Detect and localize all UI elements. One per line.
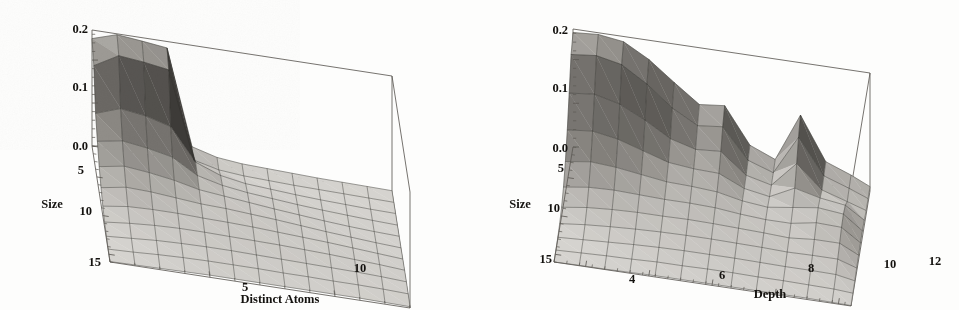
x-axis-title: Distinct Atoms: [241, 292, 320, 306]
x-tick-label: 4: [629, 272, 636, 286]
size-tick-label: 10: [80, 204, 93, 218]
x-tick-label: 8: [808, 261, 814, 275]
surface-plot-left-canvas: 0.00.10.251015510SizeDistinct Atoms: [0, 0, 480, 310]
x-axis-title: Depth: [754, 287, 787, 301]
size-tick-label: 15: [540, 252, 553, 266]
x-tick-label: 10: [354, 261, 367, 275]
z-tick-label: 0.0: [72, 139, 88, 153]
y-axis-title: Size: [41, 197, 63, 211]
z-tick-label: 0.1: [72, 80, 88, 94]
surface-plot-right-canvas: 0.00.10.2510154681012SizeDepth: [480, 0, 959, 310]
z-tick-label: 0.1: [552, 81, 568, 95]
x-tick-label: 10: [884, 257, 897, 271]
figure-3d-surface-pair: 0.00.10.251015510SizeDistinct Atoms 0.00…: [0, 0, 959, 310]
y-axis-title: Size: [509, 197, 531, 211]
surface-plot-distinct-atoms: 0.00.10.251015510SizeDistinct Atoms: [0, 0, 480, 310]
z-tick-label: 0.2: [72, 22, 88, 36]
size-tick-label: 15: [89, 255, 102, 269]
size-tick-label: 10: [548, 201, 561, 215]
x-tick-label: 12: [929, 254, 942, 268]
z-tick-label: 0.0: [552, 141, 568, 155]
surface-plot-depth: 0.00.10.2510154681012SizeDepth: [480, 0, 959, 310]
z-tick-label: 0.2: [552, 23, 568, 37]
size-tick-label: 5: [558, 161, 564, 175]
size-tick-label: 5: [78, 163, 84, 177]
x-tick-label: 6: [719, 268, 725, 282]
